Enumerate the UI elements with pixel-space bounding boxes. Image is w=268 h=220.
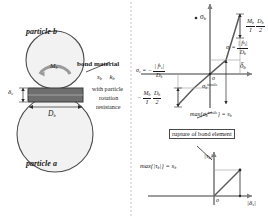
moment-positive-annotation: Mb I Db 2 bbox=[246, 18, 265, 33]
moment-neg-arrow-top bbox=[176, 88, 179, 91]
gap-arrow-top bbox=[21, 88, 25, 91]
moment-pos-frac2-num: Db bbox=[256, 18, 264, 27]
diameter-label: Db bbox=[48, 110, 56, 119]
sigma-tensile-arrow-bottom bbox=[224, 101, 227, 104]
gap-label: δc bbox=[8, 89, 13, 96]
chart-bottom-base-dot bbox=[239, 195, 241, 197]
chart-top-x-arrowhead bbox=[247, 71, 252, 76]
chart-bottom-peak-dot bbox=[239, 169, 242, 172]
particle-b-label: particle b bbox=[26, 28, 57, 36]
sigma-t-num: | fbt| bbox=[237, 40, 248, 49]
moment-neg-den: I bbox=[143, 99, 152, 105]
bond-material-label: bond material bbox=[77, 61, 119, 68]
sigma-t-fraction: | fbt| Db bbox=[237, 40, 248, 56]
moment-pos-num: Mb bbox=[246, 18, 255, 27]
sigma-tensile-label: σbtensile bbox=[202, 83, 217, 90]
sigma-c-equation: σc = − | fbc| Db bbox=[136, 63, 165, 79]
particle-a-label: particle a bbox=[26, 160, 57, 168]
chart-top-curve bbox=[178, 14, 240, 105]
chart-top-y-arrowhead bbox=[207, 4, 212, 9]
gap-arrow-bottom bbox=[21, 99, 25, 102]
moment-neg-frac2-num: Db bbox=[153, 90, 161, 99]
max-sigma-tensile-annotation: max{σbtensile} = sb bbox=[190, 111, 232, 119]
particle-b-circle bbox=[26, 31, 84, 89]
chart-top-origin-dot bbox=[209, 73, 212, 76]
chart-bottom-vectors bbox=[148, 152, 252, 205]
moment-neg-frac-2: Db 2 bbox=[153, 90, 161, 105]
moment-negative-annotation: − Mb I Db 2 bbox=[137, 90, 161, 105]
chart-bottom-y-axis-label: |τb| bbox=[204, 153, 213, 160]
moment-neg-num: Mb bbox=[143, 90, 152, 99]
chart-bottom-origin-label: o bbox=[216, 197, 219, 203]
chart-top-x-axis-label: δb bbox=[240, 62, 246, 71]
moment-pos-den: I bbox=[246, 27, 255, 33]
sigma-c-den: Db bbox=[153, 72, 165, 80]
max-tau-annotation: max{|τb|} = sb bbox=[140, 163, 176, 170]
rupture-of-bond-element-box: rupture of bond element bbox=[169, 129, 235, 139]
bond-params-label: sb kb bbox=[97, 74, 115, 81]
schematic-vectors bbox=[17, 31, 110, 172]
sigma-c-num: | fbc| bbox=[153, 63, 165, 72]
moment-neg-frac-1: Mb I bbox=[143, 90, 152, 105]
moment-pos-arrow-bottom bbox=[238, 35, 241, 38]
bond-note-line-2: rotation bbox=[99, 95, 118, 101]
chart-top-y-axis-label: σb bbox=[200, 13, 206, 22]
figure-canvas: particle b particle a Mb δc Db bond mate… bbox=[0, 0, 268, 220]
bond-note-line-1: with particle bbox=[92, 86, 123, 92]
chart-top-marker-sigma-b bbox=[195, 17, 198, 20]
chart-bottom-curve bbox=[214, 170, 240, 196]
moment-neg-prefix: − bbox=[137, 94, 141, 100]
chart-bottom-x-axis-label: |δs| bbox=[247, 200, 256, 207]
sigma-t-equation: σt = | fbt| Db bbox=[226, 40, 248, 56]
bond-note-line-3: resistance bbox=[96, 104, 120, 110]
chart-bottom-x-arrowhead bbox=[247, 193, 252, 198]
sigma-t-den: Db bbox=[237, 49, 248, 57]
moment-pos-frac-1: Mb I bbox=[246, 18, 255, 33]
moment-label: Mb bbox=[50, 63, 57, 70]
chart-top-origin-label: o bbox=[212, 75, 215, 81]
moment-pos-frac-2: Db 2 bbox=[256, 18, 264, 33]
moment-neg-arrow-bottom bbox=[176, 104, 179, 107]
sigma-c-fraction: | fbc| Db bbox=[153, 63, 165, 79]
moment-neg-frac2-den: 2 bbox=[153, 99, 161, 105]
moment-pos-frac2-den: 2 bbox=[256, 27, 264, 33]
